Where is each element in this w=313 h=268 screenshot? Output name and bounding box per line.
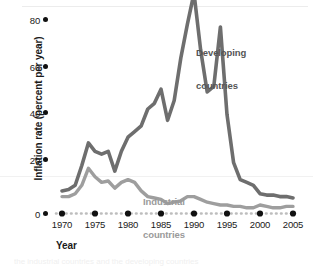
industrial-countries-label: Industrial countries [143,174,185,262]
x-tick-dot-2000 [257,210,263,216]
developing-countries-line [62,0,293,198]
x-tick-dot-1970 [59,210,65,216]
x-tick-label-2000: 2000 [243,219,277,230]
x-tick-dot-2005 [290,210,296,216]
inflation-rate-chart-figure: Inflation rate (percent per year) 80 60 … [0,0,313,268]
x-tick-label-1995: 1995 [210,219,244,230]
x-tick-dot-1990 [191,210,197,216]
developing-countries-label-line1: Developing [196,47,246,58]
x-tick-label-1980: 1980 [111,219,145,230]
x-tick-dot-1995 [224,210,230,216]
x-tick-label-2005: 2005 [276,219,310,230]
developing-countries-label-line2: countries [196,80,246,91]
x-tick-dot-1975 [92,210,98,216]
x-axis-title: Year [56,240,77,251]
developing-countries-label: Developing countries [196,25,246,113]
x-tick-label-1970: 1970 [45,219,79,230]
x-tick-dot-1980 [125,210,131,216]
x-tick-label-1975: 1975 [78,219,112,230]
industrial-countries-label-line1: Industrial [143,196,185,207]
industrial-countries-label-line2: countries [143,229,185,240]
cropped-caption-text: the industrial countries and the develop… [14,258,249,266]
